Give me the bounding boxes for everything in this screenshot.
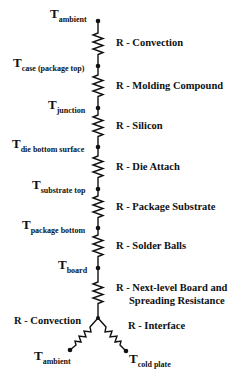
resistor-label-convection-bottom: R - Convection (14, 315, 81, 326)
node-label-ambient-top: Tambient (50, 4, 87, 22)
node-label-die-bottom: Tdie bottom surface (12, 134, 84, 152)
resistor-label-solder: R - Solder Balls (116, 240, 186, 251)
t-subscript: ambient (43, 357, 71, 366)
t-symbol: T (32, 177, 41, 192)
t-symbol: T (48, 97, 57, 112)
resistor-label-board-line1: R - Next-level Board and (116, 282, 227, 293)
node-dot-package-bottom (96, 226, 101, 231)
node-dot-substrate-top (96, 187, 101, 192)
t-symbol: T (50, 6, 59, 21)
resistor-label-die-attach: R - Die Attach (116, 161, 180, 172)
node-dot-y-junction (96, 316, 100, 320)
t-symbol: T (58, 257, 67, 272)
node-dot-case (96, 64, 101, 69)
wire-interface (98, 318, 126, 351)
node-label-junction: Tjunction (48, 95, 85, 113)
node-dot-board (96, 266, 101, 271)
node-label-cold-plate: Tcold plate (129, 349, 171, 367)
t-symbol: T (34, 348, 43, 363)
wire-molding (93, 66, 103, 108)
t-symbol: T (22, 217, 31, 232)
t-subscript: ambient (59, 15, 87, 24)
t-symbol: T (13, 55, 22, 70)
node-label-board: Tboard (58, 255, 87, 273)
node-label-package-bottom: Tpackage bottom (22, 215, 85, 233)
t-subscript: die bottom surface (21, 145, 85, 154)
resistor-label-interface: R - Interface (128, 320, 185, 331)
resistor-label-board-line2: Spreading Resistance (129, 295, 225, 306)
node-dot-die-bottom (96, 145, 101, 150)
node-dot-junction (96, 106, 101, 111)
node-label-case: Tcase (package top) (13, 53, 84, 71)
t-symbol: T (129, 351, 138, 366)
t-subscript: package bottom (31, 226, 85, 235)
resistor-label-convection-top: R - Convection (116, 37, 183, 48)
node-dot-ambient-top (96, 19, 101, 24)
wire-convection-top (93, 21, 103, 66)
t-subscript: board (67, 266, 87, 275)
resistor-label-silicon: R - Silicon (116, 120, 163, 131)
resistor-label-substrate: R - Package Substrate (116, 201, 215, 212)
t-symbol: T (12, 136, 21, 151)
node-label-ambient-bottom: Tambient (34, 346, 71, 364)
wire-silicon (93, 108, 103, 147)
wire-substrate (93, 189, 103, 228)
wire-board (93, 268, 103, 318)
t-subscript: case (package top) (22, 64, 85, 73)
resistor-label-molding: R - Molding Compound (116, 80, 223, 91)
t-subscript: cold plate (138, 360, 171, 369)
node-dot-cold-plate (124, 349, 129, 354)
t-subscript: substrate top (41, 186, 86, 195)
t-subscript: junction (57, 106, 85, 115)
wire-solder (93, 228, 103, 268)
node-label-substrate-top: Tsubstrate top (32, 175, 85, 193)
wire-die-attach (93, 147, 103, 189)
